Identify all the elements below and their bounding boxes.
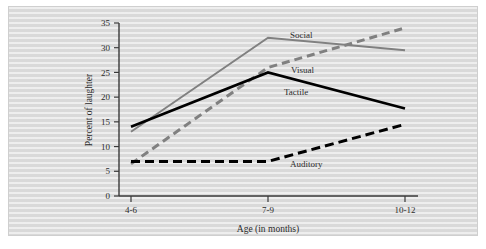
y-tick-label: 25 [101, 68, 111, 78]
series-label-visual: Visual [291, 65, 314, 75]
y-tick-label: 5 [106, 166, 111, 176]
y-axis-title: Percent of laughter [84, 73, 94, 146]
y-tick-label: 10 [101, 142, 111, 152]
y-tick-label: 0 [106, 191, 111, 201]
x-axis-ticks: 4-67-910-12 [125, 196, 416, 215]
figure-container: 05101520253035 4-67-910-12 Percent of la… [0, 0, 486, 249]
y-axis-ticks: 05101520253035 [101, 18, 119, 201]
series-line-auditory [131, 124, 405, 161]
series-line-tactile [131, 72, 405, 126]
y-tick-label: 20 [101, 92, 111, 102]
line-chart: 05101520253035 4-67-910-12 Percent of la… [0, 0, 486, 249]
x-axis-title: Age (in months) [237, 224, 299, 235]
series-line-social [131, 38, 405, 132]
x-tick-label: 4-6 [125, 205, 137, 215]
series-lines [131, 28, 405, 164]
series-line-visual [131, 28, 405, 164]
y-tick-label: 35 [101, 18, 111, 28]
series-label-social: Social [290, 30, 313, 40]
y-tick-label: 30 [101, 43, 111, 53]
x-tick-label: 10-12 [395, 205, 416, 215]
y-tick-label: 15 [101, 117, 111, 127]
series-label-auditory: Auditory [290, 159, 323, 169]
series-label-tactile: Tactile [284, 87, 308, 97]
x-tick-label: 7-9 [262, 205, 274, 215]
